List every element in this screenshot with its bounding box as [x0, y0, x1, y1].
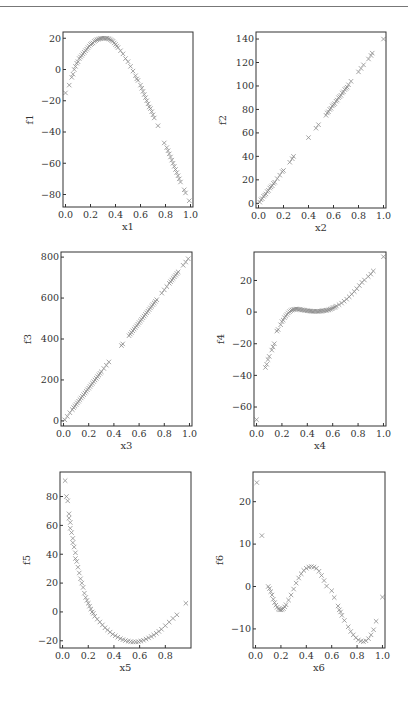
x-marker: [66, 499, 70, 503]
x-tick-label: 0.2: [273, 650, 288, 661]
x-marker: [165, 284, 169, 288]
x-marker: [131, 69, 135, 73]
x-marker: [121, 342, 125, 346]
data-points: [63, 36, 191, 203]
x-tick-label: 0.0: [248, 650, 263, 661]
x-tick-label: 0.2: [274, 428, 289, 439]
x-tick-label: 1.0: [376, 428, 391, 439]
x-marker: [276, 327, 280, 331]
x-marker: [349, 79, 353, 83]
x-marker: [314, 126, 318, 130]
x-marker: [81, 585, 85, 589]
x-marker: [162, 141, 166, 145]
x-marker: [155, 297, 159, 301]
x-marker: [67, 512, 71, 516]
x-marker: [78, 577, 82, 581]
x-marker: [67, 516, 71, 520]
y-axis-label: f5: [21, 555, 32, 565]
x-marker: [299, 572, 303, 576]
x-marker: [107, 360, 111, 364]
x-marker: [71, 540, 75, 544]
y-tick-label: 10: [239, 538, 251, 549]
x-marker: [281, 168, 285, 172]
x-marker: [322, 578, 326, 582]
x-tick-label: 0.0: [55, 650, 70, 661]
x-marker: [156, 124, 160, 128]
x-axis-label: x4: [314, 440, 326, 451]
scatter-panel-f2: 0.00.20.40.60.81.0020406080100120140x2f2: [217, 32, 391, 233]
x-marker: [329, 589, 333, 593]
x-marker: [275, 176, 279, 180]
x-tick-label: 0.2: [276, 210, 291, 221]
x-marker: [71, 536, 75, 540]
y-tick-label: 40: [242, 151, 254, 162]
x-marker: [371, 628, 375, 632]
x-tick-label: 0.6: [325, 428, 340, 439]
y-axis-label: f1: [24, 114, 35, 124]
y-tick-label: −60: [41, 158, 61, 169]
x-marker: [317, 569, 321, 573]
x-tick-label: 0.6: [324, 650, 339, 661]
y-tick-label: 20: [239, 496, 251, 507]
x-marker: [284, 603, 288, 607]
y-tick-label: 800: [41, 251, 59, 262]
x-marker: [316, 122, 320, 126]
y-tick-label: −80: [41, 189, 61, 200]
x-tick-label: 1.0: [183, 209, 198, 220]
scatter-panel-f1: 0.00.20.40.60.81.0−80−60−40−20020x1f1: [24, 32, 198, 232]
x-marker: [80, 581, 84, 585]
x-tick-label: 0.6: [132, 428, 147, 439]
x-axis-label: x6: [313, 662, 325, 673]
y-tick-label: 60: [46, 520, 58, 531]
x-marker: [289, 593, 293, 597]
y-tick-label: 120: [236, 57, 254, 68]
x-marker: [366, 636, 370, 640]
x-marker: [77, 571, 81, 575]
x-marker: [63, 418, 67, 422]
x-marker: [306, 135, 310, 139]
x-marker: [102, 366, 106, 370]
x-tick-label: 0.0: [58, 209, 73, 220]
x-marker: [324, 584, 328, 588]
x-axis-label: x5: [119, 662, 131, 673]
x-marker: [255, 480, 259, 484]
x-tick-label: 0.8: [351, 428, 366, 439]
x-tick-label: 1.0: [376, 210, 391, 221]
x-tick-label: 0.4: [301, 210, 316, 221]
scatter-panel-f5: 0.00.20.40.60.8−20020406080x5f5: [21, 472, 191, 673]
x-axis-label: x1: [122, 221, 134, 232]
chart-grid: 0.00.20.40.60.81.0−80−60−40−20020x1f10.0…: [0, 0, 408, 707]
x-marker: [294, 581, 298, 585]
x-tick-label: 0.8: [351, 210, 366, 221]
x-marker: [369, 633, 373, 637]
y-tick-label: −20: [41, 95, 61, 106]
y-tick-label: −40: [41, 126, 61, 137]
x-marker: [380, 595, 384, 599]
x-tick-label: 0.4: [299, 650, 314, 661]
x-marker: [67, 83, 71, 87]
x-tick-label: 0.8: [158, 209, 173, 220]
x-marker: [136, 78, 140, 82]
data-points: [63, 478, 188, 644]
x-tick-label: 0.8: [350, 650, 365, 661]
x-marker: [296, 576, 300, 580]
plot-frame: [63, 32, 193, 207]
data-points: [254, 255, 385, 422]
x-marker: [336, 604, 340, 608]
x-marker: [288, 160, 292, 164]
x-tick-label: 0.4: [300, 428, 315, 439]
x-marker: [332, 595, 336, 599]
x-marker: [254, 417, 258, 421]
y-tick-label: 0: [246, 306, 252, 317]
x-marker: [366, 57, 370, 61]
x-tick-label: 0.6: [132, 650, 147, 661]
y-tick-label: 20: [46, 577, 58, 588]
y-tick-label: 140: [236, 33, 254, 44]
x-marker: [160, 291, 164, 295]
x-marker: [186, 257, 190, 261]
y-tick-label: −20: [38, 635, 58, 646]
x-marker: [273, 180, 277, 184]
plot-frame: [253, 472, 385, 648]
x-marker: [319, 573, 323, 577]
x-marker: [69, 530, 73, 534]
